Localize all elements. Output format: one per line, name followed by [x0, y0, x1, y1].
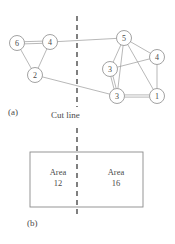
graph-node: 2 — [28, 68, 43, 83]
node-label: 3 — [115, 92, 119, 101]
graph-edges-layer — [21, 38, 157, 97]
node-label: 5 — [122, 34, 126, 43]
cut-line-label: Cut line — [51, 110, 80, 120]
node-label: 4 — [155, 53, 159, 62]
node-label: 3 — [108, 65, 112, 74]
area-left-value: 12 — [38, 178, 78, 189]
graph-node: 1 — [150, 89, 165, 104]
figure-canvas: 64254331 — [0, 0, 175, 244]
graph-edge — [21, 50, 32, 69]
graph-edge — [25, 43, 43, 44]
graph-edge — [128, 45, 154, 90]
area-right-block: Area 16 — [96, 167, 136, 189]
graph-edge — [38, 49, 47, 68]
graph-edge — [113, 45, 121, 62]
graph-cut-edge — [57, 38, 116, 41]
graph-node: 5 — [117, 31, 132, 46]
graph-node: 4 — [43, 35, 58, 50]
node-label: 4 — [48, 38, 52, 47]
area-right-name: Area — [96, 167, 136, 178]
graph-node: 3 — [110, 89, 125, 104]
node-label: 2 — [33, 71, 37, 80]
graph-node: 4 — [150, 50, 165, 65]
graph-edge — [130, 42, 150, 54]
graph-node: 6 — [10, 36, 25, 51]
area-left-name: Area — [38, 167, 78, 178]
graph-cut-edge — [42, 77, 109, 94]
panel-b-caption: (b) — [27, 218, 38, 228]
area-right-value: 16 — [96, 178, 136, 189]
node-label: 1 — [155, 92, 159, 101]
figure-root: 64254331 Cut line (a) (b) Area 12 Area 1… — [0, 0, 175, 244]
panel-a-caption: (a) — [8, 107, 18, 117]
graph-node: 3 — [103, 62, 118, 77]
graph-edge — [117, 59, 149, 67]
node-label: 6 — [15, 39, 19, 48]
area-left-block: Area 12 — [38, 167, 78, 189]
graph-edge — [24, 41, 42, 42]
